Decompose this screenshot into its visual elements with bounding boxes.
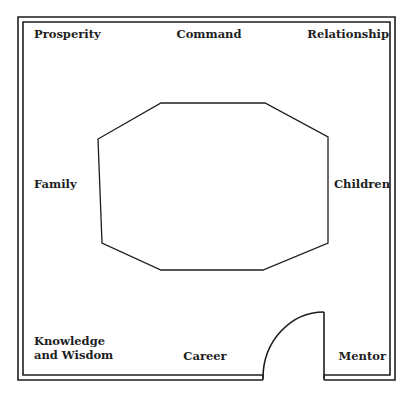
center-octagon: [98, 103, 328, 270]
area-label-knowledge-and-wisdom: Knowledge and Wisdom: [34, 334, 113, 362]
area-label-children: Children: [334, 177, 390, 191]
area-label-knowledge-line2: and Wisdom: [34, 348, 113, 362]
door: [263, 312, 324, 378]
area-label-family: Family: [34, 177, 77, 191]
area-label-career: Career: [183, 349, 226, 363]
door-swing-arc: [263, 312, 324, 378]
outer-wall: [18, 17, 395, 380]
area-label-relationship: Relationship: [307, 27, 389, 41]
area-label-mentor: Mentor: [339, 349, 386, 363]
area-label-knowledge-line1: Knowledge: [34, 334, 113, 348]
area-label-command: Command: [176, 27, 241, 41]
area-label-prosperity: Prosperity: [34, 27, 101, 41]
